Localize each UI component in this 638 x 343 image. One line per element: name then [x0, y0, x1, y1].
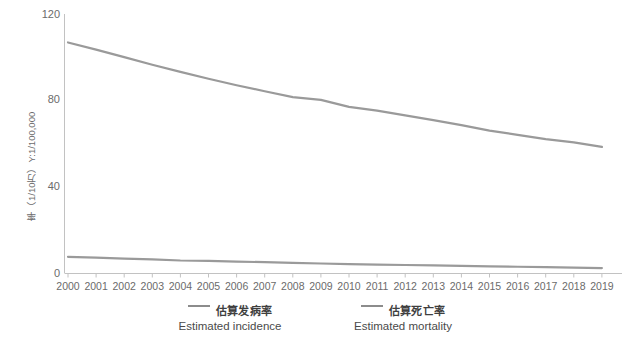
- x-axis-tick-labels: 2000200120022003200420052006200720082009…: [0, 277, 638, 293]
- legend-line-swatch-mortality: [361, 305, 383, 307]
- legend-label-en-incidence: Estimated incidence: [150, 320, 310, 332]
- line-series-estimated-mortality: [68, 257, 602, 268]
- line-chart: 率（1/10万）Y:1/100,000 120 80 40 0 20002001…: [0, 0, 638, 343]
- legend-label-cn-mortality: 估算死亡率: [389, 302, 445, 318]
- x-tick-2019: 2019: [585, 280, 619, 292]
- legend-label-en-mortality: Estimated mortality: [318, 320, 488, 332]
- legend-label-cn-incidence: 估算发病率: [216, 302, 272, 318]
- legend-item-estimated-incidence: 估算发病率 Estimated incidence: [150, 300, 310, 332]
- chart-legend: 估算发病率 Estimated incidence 估算死亡率 Estimate…: [0, 300, 638, 342]
- legend-item-estimated-mortality: 估算死亡率 Estimated mortality: [318, 300, 488, 332]
- line-series-estimated-incidence: [68, 42, 602, 146]
- legend-line-swatch-incidence: [188, 305, 210, 307]
